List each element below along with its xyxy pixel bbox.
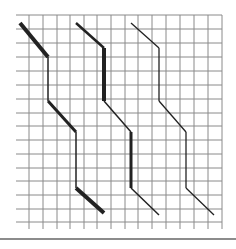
path-segment	[20, 23, 48, 57]
path-segment	[48, 101, 76, 132]
path-3	[131, 23, 214, 215]
path-segment	[104, 101, 131, 132]
path-segment	[131, 188, 159, 215]
staircase-paths-figure	[0, 0, 236, 249]
path-segment	[76, 23, 104, 48]
path-segment	[186, 188, 214, 215]
zigzag-paths	[20, 23, 214, 215]
path-segment	[131, 23, 159, 48]
grid	[16, 15, 222, 229]
path-segment	[159, 101, 186, 132]
path-1	[20, 23, 104, 213]
bottom-rule-divider	[0, 238, 236, 240]
path-2	[76, 23, 159, 215]
